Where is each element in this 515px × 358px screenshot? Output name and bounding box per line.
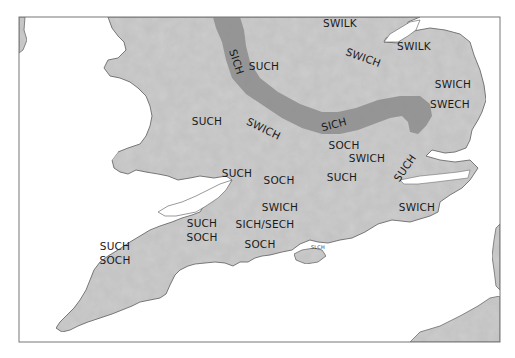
map-label-swilk-east: SWILK — [397, 40, 432, 52]
dialect-map: SWILKSWILKSWICHSUCHSICHSWICHSWECHSUCHSWI… — [0, 0, 515, 358]
map-label-swich-wilts: SWICH — [262, 201, 298, 213]
map-label-such-glos: SUCH — [222, 167, 252, 179]
map-label-swech-norfolk: SWECH — [430, 98, 470, 110]
map-label-soch-oxon: SOCH — [264, 174, 295, 186]
map-label-soch-somerset: SOCH — [187, 231, 218, 243]
map-label-swich-norfolk: SWICH — [435, 78, 471, 90]
map-label-sich-sech-hants: SICH/SECH — [236, 218, 295, 230]
map-label-such-wales-border: SUCH — [192, 115, 222, 127]
map-label-solent-label: SLCH — [311, 244, 325, 250]
map-label-such-somerset: SUCH — [187, 217, 217, 229]
map-label-such-devon: SUCH — [100, 240, 130, 252]
map-label-swilk-north: SWILK — [323, 17, 358, 29]
map-label-soch-essex-west: SOCH — [329, 139, 360, 151]
map-label-such-london: SUCH — [327, 171, 357, 183]
map-label-soch-dorset: SOCH — [245, 238, 276, 250]
map-label-soch-devon: SOCH — [100, 254, 131, 266]
map-label-such-midlands: SUCH — [249, 60, 279, 72]
map-label-swich-kent: SWICH — [399, 201, 435, 213]
map-label-swich-essex: SWICH — [349, 152, 385, 164]
